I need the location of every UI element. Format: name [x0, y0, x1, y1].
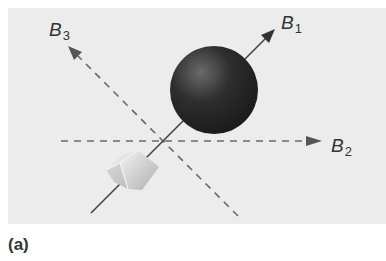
label-b2: B2	[331, 136, 352, 158]
arrowhead-icon	[306, 136, 322, 146]
sphere	[170, 46, 258, 134]
label-b3: B3	[49, 20, 70, 42]
axis-b2	[61, 136, 322, 146]
figure-caption: (a)	[8, 235, 29, 255]
label-b1: B1	[281, 13, 302, 35]
cube	[106, 150, 159, 190]
